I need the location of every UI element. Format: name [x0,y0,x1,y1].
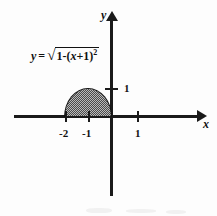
x-tick-label-1: 1 [135,128,141,139]
y-tick-label-1: 1 [124,83,130,94]
y-axis-arrow-icon [106,11,118,21]
radical-sign-icon: √ [47,47,55,63]
scan-artifact [166,210,186,214]
x-tick-label-neg2: -2 [59,128,68,139]
y-axis-label: y [101,9,106,21]
x-tick-mark-neg1 [88,111,90,122]
y-tick-mark-1 [105,88,118,90]
x-axis-label: x [203,118,209,130]
x-tick-mark-neg2 [65,111,67,122]
radical-expression: √1-(x+1)2 [47,47,99,63]
scan-artifact [86,208,112,213]
equation-annotation: y=√1-(x+1)2 [31,47,99,63]
x-tick-label-neg1: -1 [82,128,91,139]
radicand-exponent: 2 [93,48,97,57]
graph-figure: x y -2 -1 1 1 y=√1-(x+1)2 [0,0,217,216]
x-tick-mark-1 [137,111,139,122]
radicand-prefix: 1-( [56,49,70,63]
radicand: 1-(x+1)2 [55,47,99,62]
equation-equals-sign: = [36,49,47,63]
radicand-suffix: +1) [76,49,93,63]
scan-artifact [126,209,156,213]
